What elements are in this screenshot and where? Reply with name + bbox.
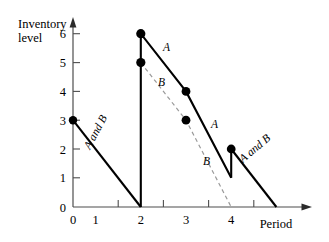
y-tick-label-5: 5: [60, 56, 66, 70]
data-point: [227, 145, 236, 154]
label-a-and-b-left: A and B: [81, 113, 109, 152]
y-tick-label-0: 0: [60, 201, 66, 215]
y-tick-label-1: 1: [60, 171, 66, 185]
y-axis-ticks: [73, 34, 80, 178]
data-point: [136, 29, 145, 38]
label-a-and-b-right: A and B: [236, 132, 273, 166]
data-point: [182, 87, 191, 96]
x-axis-title: Period: [260, 217, 293, 231]
x-tick-labels: 0 1 2 3 4: [70, 213, 235, 227]
label-b-upper: B: [158, 76, 165, 88]
x-tick-label-2: 2: [138, 213, 144, 227]
series-a-and-b-left-line: [73, 120, 141, 207]
x-tick-label-4: 4: [228, 213, 235, 227]
chart-canvas: 0 1 2 3 4 5 6 0 1 2 3 4 Inventory level …: [0, 0, 329, 242]
series-annotations: A and B A B A B A and B: [81, 41, 273, 167]
data-point: [136, 58, 145, 67]
y-tick-label-3: 3: [60, 114, 66, 128]
label-a-upper: A: [162, 41, 171, 53]
x-tick-label-1: 1: [92, 213, 98, 227]
data-point: [182, 116, 191, 125]
data-point: [69, 116, 77, 124]
y-tick-labels: 0 1 2 3 4 5 6: [60, 27, 67, 214]
y-tick-label-2: 2: [60, 143, 66, 157]
label-a-lower: A: [210, 118, 219, 130]
inventory-level-chart: 0 1 2 3 4 5 6 0 1 2 3 4 Inventory level …: [0, 0, 329, 242]
y-axis-title-line1: Inventory: [18, 17, 67, 31]
x-tick-label-3: 3: [183, 213, 189, 227]
y-axis-title-line2: level: [18, 31, 43, 45]
y-axis: [70, 17, 77, 207]
y-tick-label-4: 4: [60, 85, 67, 99]
label-b-lower: B: [203, 155, 210, 167]
x-tick-label-0: 0: [70, 213, 76, 227]
series-a-line: [141, 34, 277, 207]
series-b-line: [141, 63, 231, 207]
